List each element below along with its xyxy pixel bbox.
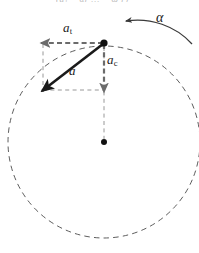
label-total-acceleration: a <box>69 64 76 77</box>
label-a-symbol: a <box>69 63 76 78</box>
diagram-canvas <box>0 0 199 253</box>
label-at-symbol: a <box>63 20 70 35</box>
label-ac-symbol: a <box>107 52 114 67</box>
label-alpha-symbol: α <box>156 10 163 25</box>
particle-point <box>100 39 107 46</box>
circle-center-point <box>101 139 107 145</box>
physics-diagram-circular-acceleration: (a₁ = αr … = ω²r) <box>0 0 199 253</box>
label-at-subscript: t <box>70 26 72 36</box>
label-tangential-acceleration: at <box>63 21 72 35</box>
label-angular-acceleration: α <box>156 11 163 25</box>
label-centripetal-acceleration: ac <box>107 53 118 67</box>
label-ac-subscript: c <box>114 58 118 68</box>
